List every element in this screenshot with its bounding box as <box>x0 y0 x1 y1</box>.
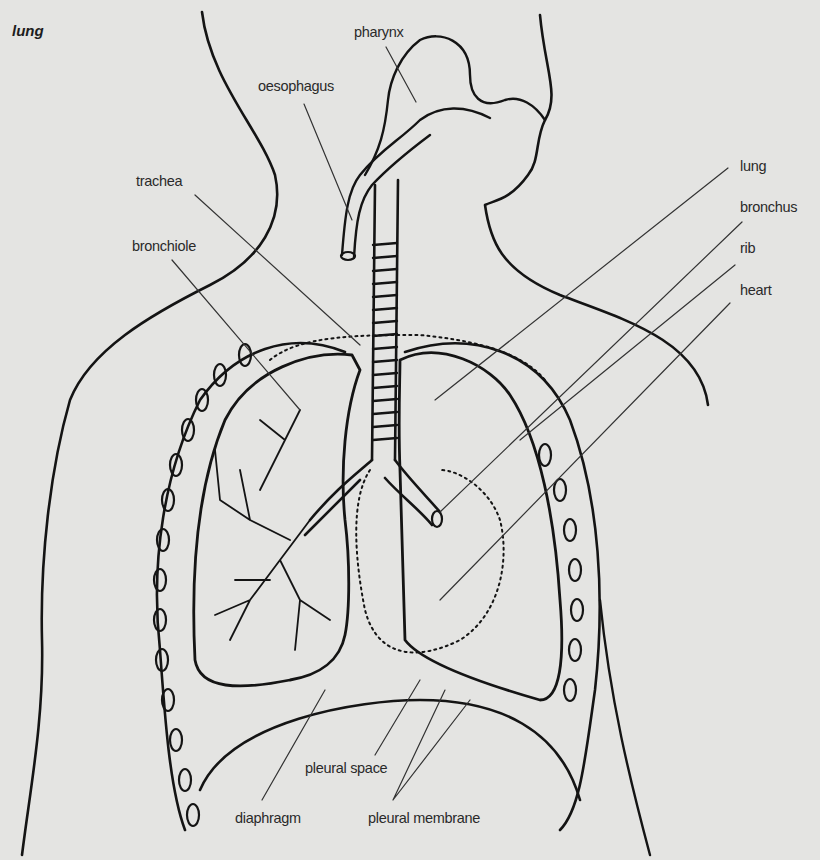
label-pleural-space: pleural space <box>305 760 387 776</box>
right-lung <box>194 354 360 686</box>
label-trachea: trachea <box>136 173 182 189</box>
label-heart: heart <box>740 282 772 298</box>
trachea <box>372 180 398 460</box>
label-bronchus: bronchus <box>740 199 797 215</box>
label-oesophagus: oesophagus <box>258 78 334 94</box>
left-lung <box>399 353 562 700</box>
arm-right <box>600 600 650 855</box>
label-pharynx: pharynx <box>354 24 404 40</box>
heart-outline <box>356 470 503 652</box>
lung-diagram: lung <box>0 0 820 860</box>
label-diaphragm: diaphragm <box>235 810 301 826</box>
oesophagus-tube <box>342 108 490 255</box>
label-lung: lung <box>740 158 766 174</box>
body-outline-left <box>22 12 277 855</box>
label-rib: rib <box>740 240 755 256</box>
respiratory-system-illustration <box>0 0 820 860</box>
label-pleural-membrane: pleural membrane <box>368 810 480 826</box>
label-bronchiole: bronchiole <box>132 238 196 254</box>
